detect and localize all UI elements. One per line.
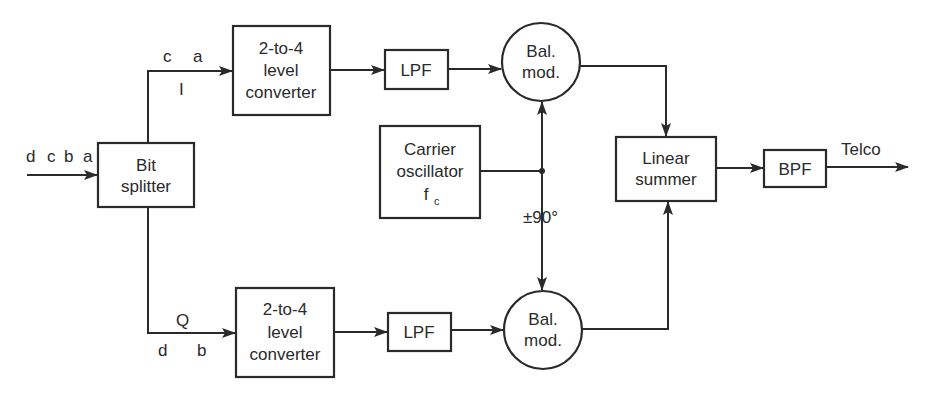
output-label: Telco xyxy=(841,140,881,159)
i-bit-c: c xyxy=(163,47,172,66)
i-converter-label-2: level xyxy=(264,61,299,80)
i-lpf-label: LPF xyxy=(400,61,431,80)
q-converter-label-1: 2-to-4 xyxy=(263,300,307,319)
q-level-converter-block: 2-to-4 level converter xyxy=(236,288,334,377)
q-converter-label-3: converter xyxy=(250,345,321,364)
q-bit-b: b xyxy=(197,341,206,360)
input-signal: d c b a xyxy=(26,147,97,175)
q-balanced-modulator: Bal. mod. xyxy=(504,291,582,369)
i-channel-label: I xyxy=(179,80,184,99)
i-lpf-block: LPF xyxy=(385,50,448,89)
i-bit-a: a xyxy=(193,47,203,66)
carrier-oscillator-block: Carrier oscillator f c xyxy=(380,126,480,218)
input-bit-d: d xyxy=(26,147,35,166)
input-bit-a: a xyxy=(83,147,93,166)
bit-splitter-label-2: splitter xyxy=(121,177,171,196)
q-lpf-block: LPF xyxy=(388,313,451,351)
carrier-freq-label: f xyxy=(424,185,429,204)
carrier-label-2: oscillator xyxy=(396,162,463,181)
q-channel-label: Q xyxy=(176,311,189,330)
q-mod-to-summer-wire xyxy=(582,202,668,329)
i-balanced-modulator: Bal. mod. xyxy=(502,23,580,101)
input-bit-c: c xyxy=(47,147,56,166)
q-bit-d: d xyxy=(158,341,167,360)
i-converter-label-1: 2-to-4 xyxy=(259,39,303,58)
i-channel-wire: c a I xyxy=(148,47,232,143)
bpf-label: BPF xyxy=(778,160,811,179)
carrier-label-1: Carrier xyxy=(404,140,456,159)
i-mod-label-1: Bal. xyxy=(526,42,555,61)
linear-summer-block: Linear summer xyxy=(616,137,716,201)
q-lpf-label: LPF xyxy=(403,323,434,342)
i-mod-to-summer-wire xyxy=(580,66,666,136)
summer-label-1: Linear xyxy=(642,149,690,168)
i-level-converter-block: 2-to-4 level converter xyxy=(233,26,330,115)
bpf-block: BPF xyxy=(764,150,826,187)
q-mod-label-1: Bal. xyxy=(528,310,557,329)
carrier-freq-subscript: c xyxy=(434,195,440,207)
input-bit-b: b xyxy=(64,147,73,166)
bit-splitter-block: Bit splitter xyxy=(98,143,194,207)
qam-block-diagram: d c b a Bit splitter c a I Q d b 2-to-4 … xyxy=(0,0,928,402)
i-mod-label-2: mod. xyxy=(522,63,560,82)
i-converter-label-3: converter xyxy=(246,83,317,102)
bit-splitter-label-1: Bit xyxy=(136,156,156,175)
q-converter-label-2: level xyxy=(268,323,303,342)
q-mod-label-2: mod. xyxy=(524,331,562,350)
summer-label-2: summer xyxy=(635,170,697,189)
phase-shift-label: ±90° xyxy=(523,208,558,227)
q-channel-wire: Q d b xyxy=(148,207,235,360)
